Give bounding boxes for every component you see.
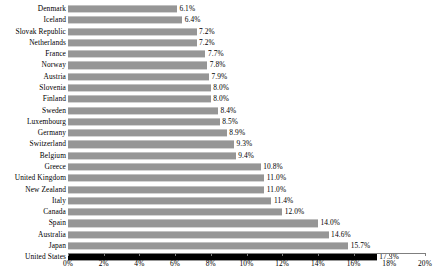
bar <box>68 141 234 148</box>
tick-mark <box>318 253 319 256</box>
tick-mark <box>389 253 390 256</box>
category-label: Norway <box>42 61 66 69</box>
category-label: Spain <box>49 219 66 227</box>
bar <box>68 130 227 137</box>
category-label: Denmark <box>38 5 66 13</box>
bar <box>68 62 207 69</box>
bar <box>68 17 182 24</box>
bar-row: Canada12.0% <box>0 206 445 217</box>
category-label: New Zealand <box>25 186 66 194</box>
value-label: 8.9% <box>229 129 245 137</box>
tick-mark <box>175 253 176 256</box>
bar <box>68 197 271 204</box>
bar-row: Denmark6.1% <box>0 3 445 14</box>
value-label: 9.3% <box>237 140 253 148</box>
bar-row: Austria7.9% <box>0 71 445 82</box>
bar-row: Sweden8.4% <box>0 105 445 116</box>
tick-mark <box>354 253 355 256</box>
bar-row: France7.7% <box>0 49 445 60</box>
category-label: France <box>45 50 66 58</box>
x-tick-label: 12% <box>275 259 289 268</box>
bar-row: Japan15.7% <box>0 240 445 251</box>
x-tick-label: 4% <box>134 259 144 268</box>
tick-mark <box>104 253 105 256</box>
value-label: 12.0% <box>285 208 305 216</box>
bar-row: Luxembourg8.5% <box>0 116 445 127</box>
category-label: Slovenia <box>39 84 66 92</box>
tick-mark <box>282 253 283 256</box>
bar <box>68 186 264 193</box>
category-label: Sweden <box>42 107 66 115</box>
bar <box>68 84 211 91</box>
bar-row: United Kingdom11.0% <box>0 173 445 184</box>
value-label: 14.0% <box>320 219 340 227</box>
x-tick-label: 8% <box>206 259 216 268</box>
value-label: 7.7% <box>208 50 224 58</box>
x-tick-label: 6% <box>170 259 180 268</box>
bar <box>68 152 236 159</box>
bar-row: New Zealand11.0% <box>0 184 445 195</box>
bar-row: Slovenia8.0% <box>0 82 445 93</box>
category-label: United Kingdom <box>15 174 66 182</box>
bar <box>68 163 261 170</box>
x-tick-label: 20% <box>418 259 432 268</box>
x-tick-label: 0% <box>63 259 73 268</box>
value-label: 6.4% <box>185 16 201 24</box>
bar-row: Spain14.0% <box>0 218 445 229</box>
bar <box>68 51 205 58</box>
category-label: United States <box>25 253 66 261</box>
x-tick-label: 14% <box>311 259 325 268</box>
category-label: Netherlands <box>29 39 66 47</box>
bar-highlighted <box>68 254 377 261</box>
x-tick-label: 2% <box>99 259 109 268</box>
bar <box>68 107 218 114</box>
category-label: Switzerland <box>30 140 66 148</box>
bar <box>68 175 264 182</box>
bar-row: Australia14.6% <box>0 229 445 240</box>
bar-row: Greece10.8% <box>0 161 445 172</box>
value-label: 8.5% <box>222 118 238 126</box>
x-tick-label: 16% <box>347 259 361 268</box>
category-label: Slovak Republic <box>15 28 66 36</box>
value-label: 9.4% <box>238 152 254 160</box>
value-label: 10.8% <box>263 163 283 171</box>
bar <box>68 220 318 227</box>
value-label: 8.0% <box>213 95 229 103</box>
category-label: Belgium <box>40 152 66 160</box>
category-label: Iceland <box>44 16 66 24</box>
category-label: Finland <box>43 95 66 103</box>
category-label: Japan <box>49 242 66 250</box>
category-label: Greece <box>44 163 66 171</box>
value-label: 6.1% <box>179 5 195 13</box>
bar-row: Finland8.0% <box>0 94 445 105</box>
bar <box>68 208 282 215</box>
bar <box>68 28 197 35</box>
bar <box>68 39 197 46</box>
tick-mark <box>247 253 248 256</box>
value-label: 8.0% <box>213 84 229 92</box>
value-label: 7.9% <box>212 73 228 81</box>
category-label: Canada <box>43 208 66 216</box>
category-label: Australia <box>38 231 66 239</box>
bar-row: Norway7.8% <box>0 60 445 71</box>
x-tick-label: 10% <box>240 259 254 268</box>
bar <box>68 73 209 80</box>
bar <box>68 5 177 12</box>
bar-row: Netherlands7.2% <box>0 37 445 48</box>
tick-mark <box>68 253 69 256</box>
bar-row: Germany8.9% <box>0 127 445 138</box>
bar-row: Switzerland9.3% <box>0 139 445 150</box>
x-tick-label: 18% <box>382 259 396 268</box>
value-label: 7.8% <box>210 61 226 69</box>
value-label: 7.2% <box>199 39 215 47</box>
tick-mark <box>139 253 140 256</box>
value-label: 14.6% <box>331 231 351 239</box>
value-label: 11.4% <box>274 197 293 205</box>
bar-row: Slovak Republic7.2% <box>0 26 445 37</box>
category-label: Austria <box>44 73 66 81</box>
value-label: 11.0% <box>267 174 286 182</box>
bar <box>68 96 211 103</box>
value-label: 8.4% <box>220 107 236 115</box>
bar-row: Italy11.4% <box>0 195 445 206</box>
bar-row: Belgium9.4% <box>0 150 445 161</box>
